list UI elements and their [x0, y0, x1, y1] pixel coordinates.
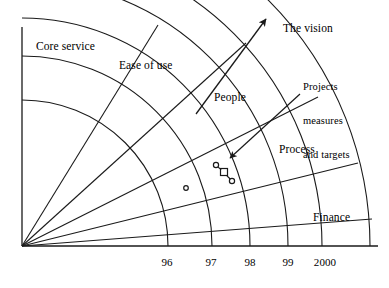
- axis-tick-98: 98: [238, 257, 262, 269]
- axis-tick-99: 99: [276, 257, 300, 269]
- annotation-line-2: measures: [303, 115, 350, 126]
- sector-label-ease-of-use: Ease of use: [119, 59, 172, 71]
- marker-connector-lower: [227, 176, 230, 179]
- annotation-line-1: Projects: [303, 81, 350, 92]
- axis-tick-2000: 2000: [307, 257, 343, 269]
- data-markers-group: [184, 162, 235, 190]
- data-point-2-icon: [213, 162, 218, 167]
- annotation-label: Projects measures and targets: [303, 58, 350, 183]
- sector-label-core-service: Core service: [36, 40, 95, 52]
- diagram-root: Core service Ease of use People Process …: [0, 0, 389, 288]
- vision-label: The vision: [283, 22, 333, 34]
- data-point-4-icon: [229, 178, 234, 183]
- axis-tick-96: 96: [155, 257, 179, 269]
- annotation-line-3: and targets: [303, 149, 350, 160]
- axis-tick-97: 97: [199, 257, 223, 269]
- data-point-3-icon: [221, 169, 228, 176]
- sector-label-finance: Finance: [313, 211, 350, 223]
- spoke-3: [22, 97, 318, 246]
- spoke-2: [22, 43, 246, 246]
- arc-96: [22, 100, 168, 246]
- sector-label-people: People: [214, 91, 246, 103]
- data-point-1-icon: [184, 186, 189, 191]
